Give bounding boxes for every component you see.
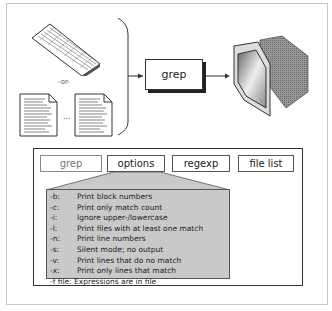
- option-row: -c:Print only match count: [50, 203, 226, 214]
- monitor-icon: [230, 34, 310, 118]
- options-list: -b:Print block numbers -c:Print only mat…: [46, 189, 230, 279]
- option-row: -s:Silent mode; no output: [50, 245, 226, 256]
- option-row: -n:Print line numbers: [50, 234, 226, 245]
- options-callout-connector: [34, 149, 302, 191]
- grep-process-box: grep: [145, 59, 203, 90]
- option-row: -x:Print only lines that match: [50, 266, 226, 277]
- option-row: -f file: Expressions are in file: [50, 277, 226, 288]
- option-row: -v:Print lines that do no match: [50, 256, 226, 267]
- option-row: -b:Print block numbers: [50, 192, 226, 203]
- command-syntax-box: grep options regexp file list -b:Print b…: [33, 148, 303, 286]
- option-row: -l:Print files with at least one match: [50, 224, 226, 235]
- option-row: -i:Ignore upper-/lowercase: [50, 213, 226, 224]
